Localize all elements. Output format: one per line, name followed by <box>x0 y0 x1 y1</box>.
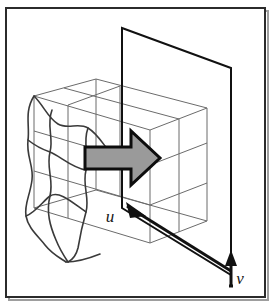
figure-canvas: u v <box>0 0 272 307</box>
axis-label-u: u <box>106 207 115 226</box>
axis-label-v: v <box>236 269 244 288</box>
figure-container: u v <box>0 0 272 307</box>
